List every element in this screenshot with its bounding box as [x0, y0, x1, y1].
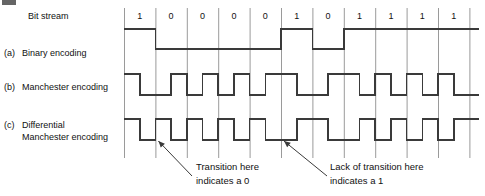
waveform-manchester-encoding	[124, 74, 479, 95]
binary-encoding-trace	[124, 29, 479, 49]
manchester-encoding-trace	[124, 74, 479, 95]
waveform-svg	[0, 0, 485, 196]
differential-manchester-encoding-trace	[124, 119, 479, 140]
figure-canvas: Bit stream (a) Binary encoding (b) Manch…	[0, 0, 485, 196]
annotation-arrows	[158, 141, 327, 176]
arrow-lack-of-transition-indicator	[284, 141, 327, 176]
waveform-binary-encoding	[124, 29, 479, 49]
waveform-differential-manchester-encoding	[124, 119, 479, 140]
